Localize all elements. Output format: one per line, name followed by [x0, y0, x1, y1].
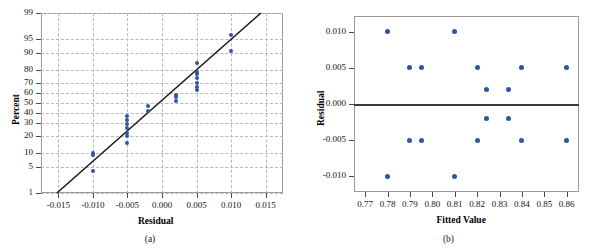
- data-point: [195, 70, 199, 74]
- y-axis-title-b: Residual: [316, 91, 326, 126]
- x-tick-label: 0.86: [559, 200, 575, 209]
- x-axis-tick: [477, 192, 478, 197]
- data-point: [195, 85, 199, 89]
- data-point: [506, 87, 511, 92]
- figure-root: 151020304050607080909599 -0.015-0.010-0.…: [0, 0, 597, 252]
- data-point: [475, 138, 480, 143]
- x-tick-label: 0.84: [514, 200, 530, 209]
- x-tick-label: 0.81: [447, 200, 463, 209]
- data-point: [564, 138, 569, 143]
- data-point: [195, 81, 199, 85]
- x-axis-tick: [365, 192, 366, 197]
- y-axis-tick: [349, 32, 354, 33]
- x-axis-tick: [544, 192, 545, 197]
- y-axis-tick: [349, 68, 354, 69]
- panel-b-residuals-vs-fits-plot: 0.0100.0050.000-0.005-0.010 0.770.780.79…: [300, 0, 597, 252]
- data-point: [385, 174, 390, 179]
- panel-caption-a: (a): [0, 234, 300, 244]
- y-axis-tick: [349, 176, 354, 177]
- x-tick-label: 0.82: [469, 200, 485, 209]
- x-axis-tick: [410, 192, 411, 197]
- panel-caption-b: (b): [300, 234, 597, 244]
- data-point: [484, 116, 489, 121]
- x-axis-tick: [522, 192, 523, 197]
- data-point: [195, 61, 199, 65]
- data-point: [91, 151, 95, 155]
- data-point: [452, 174, 457, 179]
- data-point: [174, 93, 178, 97]
- data-point: [419, 138, 424, 143]
- normal-reference-line: [0, 0, 300, 252]
- y-tick-label: -0.005: [323, 135, 346, 144]
- y-tick-label: 0.000: [326, 99, 346, 108]
- y-tick-label: 0.010: [326, 27, 346, 36]
- panel-a-normal-probability-plot: 151020304050607080909599 -0.015-0.010-0.…: [0, 0, 300, 252]
- data-point: [484, 87, 489, 92]
- data-point: [506, 116, 511, 121]
- x-axis-tick: [388, 192, 389, 197]
- x-tick-label: 0.79: [402, 200, 418, 209]
- data-point: [146, 109, 150, 113]
- x-axis-tick: [432, 192, 433, 197]
- x-axis-title-b: Fitted Value: [437, 215, 486, 225]
- normal-fit-line-segment: [57, 13, 261, 193]
- data-point: [91, 169, 95, 173]
- x-tick-label: 0.78: [380, 200, 396, 209]
- data-point: [195, 76, 199, 80]
- x-axis-tick: [567, 192, 568, 197]
- x-tick-label: 0.77: [357, 200, 373, 209]
- x-axis-title-a: Residual: [138, 216, 173, 226]
- x-tick-label: 0.83: [492, 200, 508, 209]
- data-point: [174, 99, 178, 103]
- y-tick-label: 0.005: [326, 63, 346, 72]
- y-tick-label: -0.010: [323, 171, 346, 180]
- x-axis-tick: [455, 192, 456, 197]
- y-axis-tick: [349, 140, 354, 141]
- x-axis-tick: [500, 192, 501, 197]
- zero-reference-line: [354, 104, 579, 106]
- y-axis-title-a: Percent: [11, 94, 21, 125]
- x-tick-label: 0.85: [536, 200, 552, 209]
- x-tick-label: 0.80: [424, 200, 440, 209]
